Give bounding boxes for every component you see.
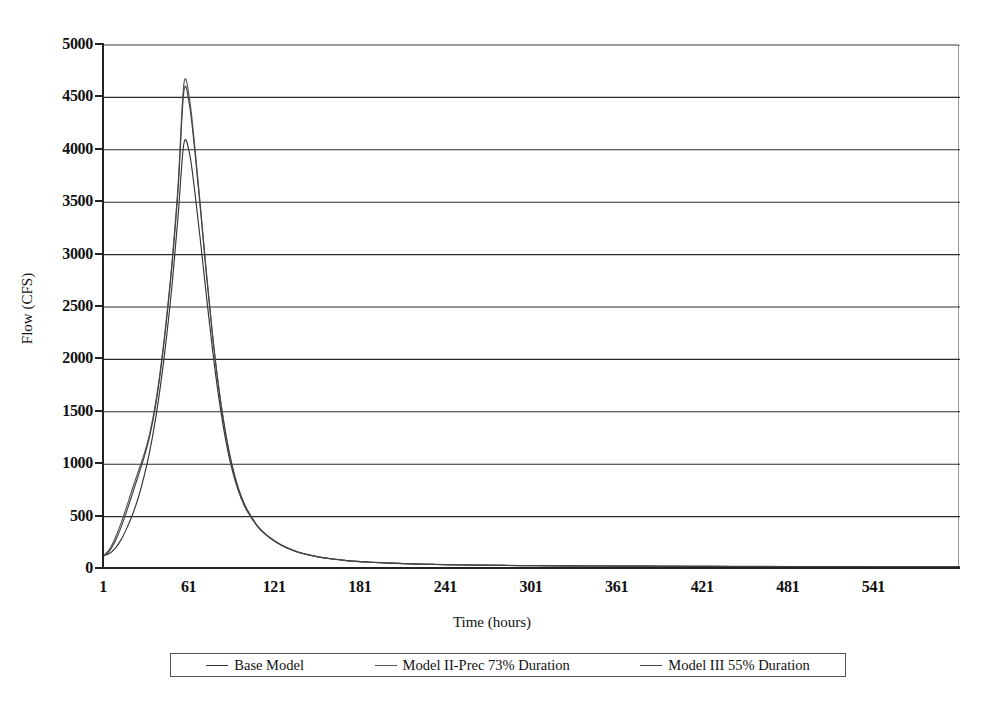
y-tick-label: 500 xyxy=(70,507,93,525)
series-line-2 xyxy=(104,79,960,567)
x-tick-label: 541 xyxy=(862,578,885,596)
y-tick-label: 3000 xyxy=(62,245,93,263)
y-tick-label: 4500 xyxy=(62,87,93,105)
legend-item-2: Model II-Prec 73% Duration xyxy=(375,657,570,674)
x-tick-label: 241 xyxy=(434,578,457,596)
y-axis-tick-labels: 0500100015002000250030003500400045005000 xyxy=(33,0,93,703)
y-tick-label: 0 xyxy=(85,559,93,577)
y-axis-line xyxy=(102,44,104,569)
x-tick-label: 481 xyxy=(776,578,799,596)
legend-line-icon xyxy=(375,665,397,666)
y-tick-label: 3500 xyxy=(62,192,93,210)
legend-label: Base Model xyxy=(234,657,304,674)
plot-area xyxy=(103,44,959,568)
x-tick-label: 361 xyxy=(605,578,628,596)
y-axis-title: Flow (CFS) xyxy=(19,249,36,369)
x-tick-label: 61 xyxy=(181,578,196,596)
plot-canvas xyxy=(104,45,960,569)
x-axis-line xyxy=(102,567,960,569)
chart-legend: Base ModelModel II-Prec 73% DurationMode… xyxy=(170,653,846,677)
y-tick-label: 2500 xyxy=(62,297,93,315)
y-tick-label: 1500 xyxy=(62,402,93,420)
legend-item-3: Model III 55% Duration xyxy=(640,657,809,674)
x-tick-label: 121 xyxy=(263,578,286,596)
y-tick-label: 1000 xyxy=(62,454,93,472)
gridlines xyxy=(104,45,960,517)
x-tick-label: 181 xyxy=(348,578,371,596)
x-tick-label: 1 xyxy=(99,578,107,596)
x-axis-title: Time (hours) xyxy=(0,614,984,631)
legend-item-1: Base Model xyxy=(206,657,304,674)
series-line-1 xyxy=(104,140,960,567)
y-tick-label: 2000 xyxy=(62,349,93,367)
hydrograph-chart: 0500100015002000250030003500400045005000… xyxy=(0,0,984,703)
legend-label: Model II-Prec 73% Duration xyxy=(403,657,570,674)
series-line-3 xyxy=(104,86,960,567)
x-tick-label: 301 xyxy=(519,578,542,596)
series-lines xyxy=(104,79,960,567)
legend-label: Model III 55% Duration xyxy=(668,657,809,674)
x-tick-label: 421 xyxy=(691,578,714,596)
y-tick-label: 4000 xyxy=(62,140,93,158)
legend-line-icon xyxy=(206,665,228,666)
y-tick-label: 5000 xyxy=(62,35,93,53)
legend-line-icon xyxy=(640,665,662,666)
